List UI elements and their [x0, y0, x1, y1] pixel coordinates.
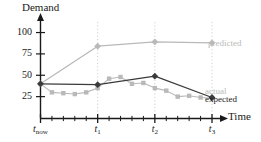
series-label-predicted: predicted: [208, 38, 241, 48]
data-point-marker: [141, 81, 145, 85]
data-point-marker: [61, 91, 65, 95]
data-series-layer: [37, 39, 215, 101]
chart-container: Demand Time 255075100 tnowt1t2t3 predict…: [0, 0, 261, 142]
y-axis-title: Demand: [22, 1, 59, 13]
chart-plot-area: [0, 0, 261, 142]
y-tick-label: 25: [10, 90, 32, 101]
data-point-marker: [164, 88, 168, 92]
data-point-marker: [50, 90, 54, 94]
data-point-marker: [151, 39, 158, 46]
series-label-expected: expected: [205, 94, 237, 104]
y-tick-label: 50: [10, 69, 32, 80]
data-point-marker: [176, 94, 180, 98]
x-tick-label: t3: [192, 123, 232, 134]
series-actual: [38, 75, 214, 101]
data-point-marker: [118, 75, 122, 79]
series-line: [41, 42, 213, 84]
data-point-marker: [84, 90, 88, 94]
x-tick-label: tnow: [21, 123, 61, 134]
y-tick-label: 75: [10, 47, 32, 58]
y-tick-label: 100: [10, 26, 32, 37]
series-line: [41, 76, 213, 97]
data-point-marker: [94, 81, 101, 88]
data-point-marker: [151, 73, 158, 80]
x-tick-label: t1: [78, 123, 118, 134]
data-point-marker: [198, 95, 202, 99]
x-tick-label: t2: [135, 123, 175, 134]
data-point-marker: [187, 94, 191, 98]
data-point-marker: [107, 76, 111, 80]
data-point-marker: [94, 43, 101, 50]
data-point-marker: [130, 82, 134, 86]
gridlines: [98, 22, 212, 118]
data-point-marker: [153, 86, 157, 90]
data-point-marker: [73, 92, 77, 96]
x-axis-title: Time: [228, 110, 251, 122]
